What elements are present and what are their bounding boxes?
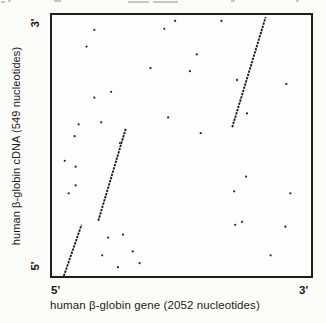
match-dot — [149, 67, 151, 69]
match-dot — [85, 45, 87, 47]
match-dot — [100, 121, 102, 123]
match-dot — [289, 192, 291, 194]
alignment-segment — [64, 225, 82, 276]
scan-artifact-mark — [153, 1, 178, 3]
match-dot — [269, 254, 271, 256]
match-dot — [220, 20, 222, 22]
alignment-segment — [232, 17, 265, 127]
match-dot — [117, 266, 119, 268]
y-axis-bottom-end-label: 5' — [29, 261, 41, 270]
scan-artifact-mark — [54, 0, 61, 2]
match-dot — [122, 234, 124, 236]
match-dot — [64, 160, 66, 162]
scan-artifact-mark — [8, 0, 11, 2]
match-dot — [119, 142, 121, 144]
match-dot — [284, 226, 286, 228]
match-dot — [174, 20, 176, 22]
match-dot — [107, 236, 109, 238]
match-dot — [236, 79, 238, 81]
match-dot — [196, 53, 198, 55]
dot-plot-figure: 3' human β-globin cDNA (549 nucleotides)… — [0, 0, 326, 323]
scan-artifact-mark — [1, 1, 5, 3]
x-axis-right-end-label: 3' — [299, 284, 308, 296]
match-dot — [93, 97, 95, 99]
x-axis-label: human β-globin gene (2052 nucleotides) — [50, 299, 260, 311]
match-dot — [163, 28, 165, 30]
match-dot — [241, 221, 243, 223]
match-dot — [74, 135, 76, 137]
match-dot — [75, 184, 77, 186]
match-dot — [77, 123, 79, 125]
y-axis-top-end-label: 3' — [29, 18, 41, 27]
scan-artifact-mark — [128, 1, 149, 3]
x-axis-left-end-label: 5' — [51, 284, 60, 296]
match-dot — [68, 192, 70, 194]
dot-matrix-canvas — [52, 15, 311, 276]
match-dot — [75, 166, 77, 168]
match-dot — [110, 91, 112, 93]
match-dot — [200, 132, 202, 134]
y-axis-label: human β-globin cDNA (549 nucleotides) — [10, 47, 22, 245]
match-dot — [93, 29, 95, 31]
match-dot — [101, 254, 103, 256]
match-dot — [285, 83, 287, 85]
match-dot — [167, 116, 169, 118]
match-dot — [132, 250, 134, 252]
match-dot — [189, 70, 191, 72]
scan-artifact-mark — [231, 0, 235, 2]
match-dot — [234, 224, 236, 226]
scan-artifact-mark — [296, 0, 299, 2]
match-dot — [246, 112, 248, 114]
match-dot — [233, 190, 235, 192]
match-dot — [139, 262, 141, 264]
plot-area — [50, 13, 313, 278]
match-dot — [245, 175, 247, 177]
alignment-segment — [98, 128, 126, 221]
